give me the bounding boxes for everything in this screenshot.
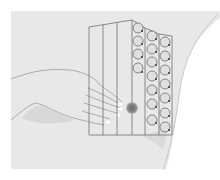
- breast-exam-illustration: [0, 0, 220, 180]
- lump-marker: [126, 102, 138, 114]
